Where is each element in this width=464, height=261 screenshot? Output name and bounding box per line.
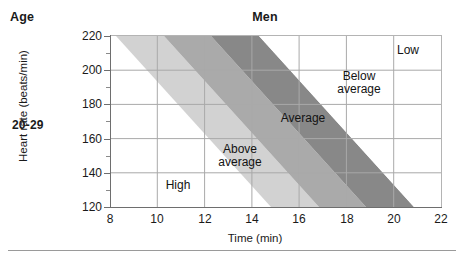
plot-frame-right [441,35,442,208]
zone-label-high: High [155,179,201,192]
y-axis-label-160: 160 [62,132,102,146]
y-axis-label-200: 200 [62,63,102,77]
y-axis-title: Heart rate (beats/min) [17,36,29,176]
zone-label-average: Average [271,112,335,125]
y-axis-label-220: 220 [62,29,102,43]
plot-frame-top [110,35,442,36]
y-tick-160 [104,139,110,140]
x-axis-label-14: 14 [232,212,272,226]
x-axis-label-12: 12 [185,212,225,226]
x-axis-label-20: 20 [374,212,414,226]
footer-divider [8,250,456,251]
y-tick-minor-190 [106,87,110,88]
y-tick-minor-170 [106,121,110,122]
chart-plot-wrapper: 220 200 180 160 140 120 8 10 12 14 16 18… [0,0,464,261]
zone-label-above-average: Above average [207,143,273,169]
y-tick-minor-210 [106,53,110,54]
zone-label-low: Low [388,44,428,57]
x-axis-line [109,207,442,208]
y-axis-label-180: 180 [62,97,102,111]
y-tick-140 [104,173,110,174]
zone-label-above-average-line2: average [207,156,273,169]
y-tick-minor-130 [106,190,110,191]
y-tick-minor-150 [106,156,110,157]
x-axis-label-22: 22 [421,212,461,226]
zone-label-below-average: Below average [328,70,390,96]
y-tick-220 [104,36,110,37]
y-tick-180 [104,104,110,105]
x-axis-label-8: 8 [90,212,130,226]
x-axis-tick-labels: 8 10 12 14 16 18 20 22 [0,212,464,232]
y-axis-label-140: 140 [62,166,102,180]
y-tick-200 [104,70,110,71]
x-axis-label-18: 18 [327,212,367,226]
y-axis-line [110,35,111,208]
y-tick-120 [104,207,110,208]
zone-label-below-average-line2: average [328,83,390,96]
x-axis-label-16: 16 [279,212,319,226]
x-axis-label-10: 10 [137,212,177,226]
x-axis-title: Time (min) [180,232,330,244]
